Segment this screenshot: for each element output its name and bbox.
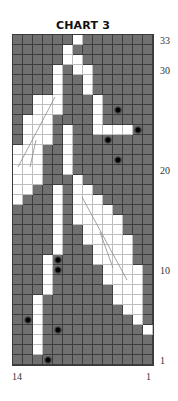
- chart-cell-contrast: [13, 155, 23, 165]
- chart-cell: [143, 45, 153, 55]
- chart-cell: [83, 325, 93, 335]
- chart-cell: [83, 265, 93, 275]
- chart-cell: [13, 215, 23, 225]
- chart-cell: [113, 335, 123, 345]
- chart-cell: [113, 55, 123, 65]
- chart-cell: [43, 65, 53, 75]
- chart-cell: [113, 165, 123, 175]
- chart-cell: [83, 255, 93, 265]
- chart-cell: [53, 165, 63, 175]
- chart-cell: [113, 175, 123, 185]
- chart-cell-contrast: [33, 305, 43, 315]
- chart-cell: [143, 155, 153, 165]
- chart-cell-contrast: [123, 245, 133, 255]
- chart-cell: [33, 195, 43, 205]
- chart-cell-contrast: [113, 235, 123, 245]
- chart-cell: [123, 135, 133, 145]
- chart-cell: [13, 305, 23, 315]
- chart-cell: [53, 55, 63, 65]
- chart-cell: [143, 75, 153, 85]
- chart-cell: [13, 315, 23, 325]
- chart-cell-contrast: [53, 85, 63, 95]
- chart-cell: [13, 45, 23, 55]
- chart-cell: [73, 355, 83, 365]
- chart-cell: [13, 85, 23, 95]
- chart-cell: [23, 245, 33, 255]
- chart-cell: [23, 335, 33, 345]
- chart-cell-contrast: [23, 155, 33, 165]
- chart-cell: [143, 345, 153, 355]
- chart-cell: [143, 305, 153, 315]
- chart-cell: [83, 135, 93, 145]
- chart-cell-contrast: [23, 175, 33, 185]
- row-number-label: 30: [160, 65, 170, 76]
- chart-cell: [103, 55, 113, 65]
- chart-cell: [123, 105, 133, 115]
- chart-cell: [133, 65, 143, 75]
- chart-cell: [133, 85, 143, 95]
- chart-cell: [103, 165, 113, 175]
- chart-cell: [113, 315, 123, 325]
- chart-cell: [63, 325, 73, 335]
- chart-cell: [13, 75, 23, 85]
- chart-cell: [23, 35, 33, 45]
- chart-cell-contrast: [33, 105, 43, 115]
- chart-cell: [63, 65, 73, 75]
- chart-cell: [73, 115, 83, 125]
- chart-cell: [143, 355, 153, 365]
- chart-cell: [73, 265, 83, 275]
- chart-cell: [53, 335, 63, 345]
- chart-cell: [143, 235, 153, 245]
- chart-cell: [53, 175, 63, 185]
- chart-cell-contrast: [133, 305, 143, 315]
- chart-cell: [13, 65, 23, 75]
- chart-cell: [143, 195, 153, 205]
- chart-cell-contrast: [23, 135, 33, 145]
- chart-cell: [83, 165, 93, 175]
- chart-cell: [133, 225, 143, 235]
- chart-cell: [93, 165, 103, 175]
- chart-cell: [143, 215, 153, 225]
- chart-cell: [123, 65, 133, 75]
- chart-cell: [63, 245, 73, 255]
- chart-cell: [103, 345, 113, 355]
- chart-cell-contrast: [53, 215, 63, 225]
- chart-cell: [143, 285, 153, 295]
- chart-cell: [23, 305, 33, 315]
- chart-cell: [43, 315, 53, 325]
- chart-cell: [83, 295, 93, 305]
- chart-cell: [123, 355, 133, 365]
- chart-cell: [83, 315, 93, 325]
- chart-cell-contrast: [83, 205, 93, 215]
- chart-cell: [133, 175, 143, 185]
- chart-cell-contrast: [13, 145, 23, 155]
- chart-cell-contrast: [93, 205, 103, 215]
- chart-cell-contrast: [53, 65, 63, 75]
- chart-cell: [63, 265, 73, 275]
- chart-cell: [143, 55, 153, 65]
- chart-cell: [23, 65, 33, 75]
- chart-cell-contrast: [73, 35, 83, 45]
- chart-cell: [93, 295, 103, 305]
- chart-cell-contrast: [93, 125, 103, 135]
- chart-cell-contrast: [33, 115, 43, 125]
- chart-cell-contrast: [53, 235, 63, 245]
- chart-cell-contrast: [23, 145, 33, 155]
- chart-cell: [93, 265, 103, 275]
- chart-cell: [43, 185, 53, 195]
- chart-cell: [123, 345, 133, 355]
- chart-cell: [143, 125, 153, 135]
- chart-cell: [143, 185, 153, 195]
- chart-cell: [23, 325, 33, 335]
- chart-cell-contrast: [83, 75, 93, 85]
- chart-cell-contrast: [73, 65, 83, 75]
- chart-cell: [33, 185, 43, 195]
- chart-cell-contrast: [113, 215, 123, 225]
- chart-cell: [33, 245, 43, 255]
- chart-cell: [53, 45, 63, 55]
- chart-cell: [133, 185, 143, 195]
- chart-cell: [13, 325, 23, 335]
- chart-cell: [43, 195, 53, 205]
- chart-cell: [73, 345, 83, 355]
- chart-cell: [143, 205, 153, 215]
